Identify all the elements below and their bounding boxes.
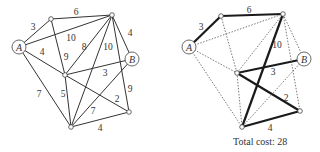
edge-weight-N2-D: 9 xyxy=(128,84,133,94)
edge-weight-C-E: 5 xyxy=(61,89,66,99)
graph-diagram: 36104981043927574 AB 3610324 AB xyxy=(0,0,320,152)
node-D xyxy=(127,110,132,115)
edge-weight-E-D: 4 xyxy=(98,123,103,133)
edge-A-C xyxy=(189,47,237,73)
node-N1 xyxy=(49,17,54,22)
edge-N1-N2 xyxy=(221,14,283,16)
edge-weight-A-C: 4 xyxy=(40,47,45,57)
node-label-B: B xyxy=(129,54,135,65)
edge-weight-C-N2: 8 xyxy=(82,42,87,52)
left-graph-edges xyxy=(19,15,132,127)
edge-weight-N2-B: 4 xyxy=(128,28,133,38)
edge-N1-C xyxy=(51,19,65,75)
edge-weight-E-D: 4 xyxy=(268,123,273,133)
node-D xyxy=(298,109,303,114)
edge-C-D xyxy=(237,73,300,111)
node-label-A: A xyxy=(185,42,193,53)
edge-C-E xyxy=(237,73,242,127)
node-C xyxy=(63,73,68,78)
node-N2 xyxy=(110,13,115,18)
edge-weight-C-D: 2 xyxy=(115,94,120,104)
edge-A-E xyxy=(189,47,242,127)
caption-text: Total cost: 28 xyxy=(233,136,287,147)
node-E xyxy=(69,125,74,130)
edge-C-D xyxy=(65,75,129,112)
edge-B-E xyxy=(71,59,132,127)
node-label-A: A xyxy=(15,42,23,53)
edge-weight-N1-N2: 6 xyxy=(247,5,252,15)
edge-weight-A-E: 7 xyxy=(37,89,42,99)
edge-weight-C-B: 3 xyxy=(271,67,276,77)
edge-weight-A-N1: 3 xyxy=(31,22,36,32)
edge-weight-N2-E: 10 xyxy=(103,42,113,52)
node-label-B: B xyxy=(301,54,307,65)
node-N2 xyxy=(281,12,286,17)
edge-weight-C-B: 3 xyxy=(103,68,108,78)
right-graph-edges xyxy=(189,14,304,127)
node-N1 xyxy=(219,14,224,19)
node-E xyxy=(240,125,245,130)
edge-weight-N1-N2: 6 xyxy=(74,7,79,17)
edge-weight-B-E: 7 xyxy=(91,106,96,116)
edge-weight-C-D: 2 xyxy=(284,93,289,103)
edge-N1-C xyxy=(221,16,237,73)
edge-N2-B xyxy=(283,14,304,59)
edge-weight-N2-E: 10 xyxy=(272,40,282,50)
node-C xyxy=(235,71,240,76)
edge-weight-A-N1: 3 xyxy=(199,22,204,32)
edge-weight-N1-C: 9 xyxy=(64,52,69,62)
edge-weight-A-N2: 10 xyxy=(66,33,76,43)
